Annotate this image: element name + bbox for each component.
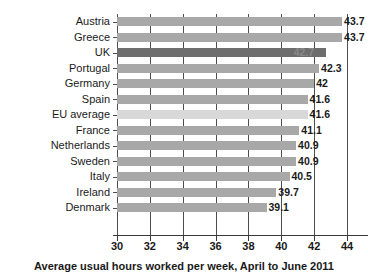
bar-chart: AustriaGreeceUKPortugalGermanySpainEU av… [0, 0, 368, 280]
category-axis-labels: AustriaGreeceUKPortugalGermanySpainEU av… [0, 14, 113, 236]
x-tick-label-44: 44 [341, 240, 353, 252]
bar-netherlands [117, 141, 296, 150]
bar-row: 42.3 [117, 61, 347, 77]
bar-value-label: 40.5 [292, 170, 312, 182]
category-label-germany: Germany [0, 76, 113, 92]
bar-row: 43.7 [117, 30, 347, 46]
bar-value-label: 43.7 [344, 15, 364, 27]
x-axis-tick-labels: 3032343638404244 [117, 240, 347, 256]
bar-row: 42.7 [117, 45, 347, 61]
bar-sweden [117, 157, 296, 166]
category-label-austria: Austria [0, 14, 113, 30]
category-label-italy: Italy [0, 169, 113, 185]
bar-value-label: 39.7 [278, 186, 298, 198]
x-tick-label-38: 38 [242, 240, 254, 252]
bar-row: 40.9 [117, 154, 347, 170]
bar-row: 39.1 [117, 200, 347, 216]
category-label-netherlands: Netherlands [0, 138, 113, 154]
bar-rows: 43.743.742.742.34241.641.641.140.940.940… [117, 14, 347, 235]
bar-value-label: 40.9 [298, 155, 318, 167]
x-tick-label-42: 42 [308, 240, 320, 252]
category-label-france: France [0, 123, 113, 139]
x-tick-label-40: 40 [275, 240, 287, 252]
bar-france [117, 126, 299, 135]
category-label-ireland: Ireland [0, 185, 113, 201]
bar-value-label: 42 [316, 77, 328, 89]
bar-row: 40.5 [117, 169, 347, 185]
bar-germany [117, 79, 314, 88]
category-label-portugal: Portugal [0, 61, 113, 77]
bar-spain [117, 95, 308, 104]
bar-row: 41.6 [117, 107, 347, 123]
x-tick-label-30: 30 [111, 240, 123, 252]
category-label-uk: UK [0, 45, 113, 61]
bar-denmark [117, 203, 267, 212]
x-tick-label-36: 36 [209, 240, 221, 252]
category-label-eu-average: EU average [0, 107, 113, 123]
category-label-greece: Greece [0, 30, 113, 46]
bar-value-label: 42.7 [294, 46, 314, 58]
bar-row: 40.9 [117, 138, 347, 154]
bar-row: 41.6 [117, 92, 347, 108]
bar-value-label: 41.6 [310, 108, 330, 120]
bar-greece [117, 33, 342, 42]
category-label-spain: Spain [0, 92, 113, 108]
bar-value-label: 41.6 [310, 93, 330, 105]
category-label-denmark: Denmark [0, 200, 113, 216]
bar-row: 42 [117, 76, 347, 92]
gridline-44 [347, 14, 348, 236]
plot-area: 43.743.742.742.34241.641.641.140.940.940… [117, 14, 347, 236]
chart-caption: Average usual hours worked per week, Apr… [0, 260, 368, 272]
bar-italy [117, 172, 290, 181]
bar-value-label: 41.1 [301, 124, 321, 136]
x-tick-label-34: 34 [177, 240, 189, 252]
bar-row: 39.7 [117, 185, 347, 201]
bar-row: 41.1 [117, 123, 347, 139]
x-tick-label-32: 32 [144, 240, 156, 252]
bar-value-label: 40.9 [298, 139, 318, 151]
bar-value-label: 39.1 [269, 201, 289, 213]
bar-ireland [117, 188, 276, 197]
category-label-sweden: Sweden [0, 154, 113, 170]
bar-value-label: 42.3 [321, 62, 341, 74]
bar-row: 43.7 [117, 14, 347, 30]
bar-portugal [117, 64, 319, 73]
bar-austria [117, 17, 342, 26]
bar-value-label: 43.7 [344, 31, 364, 43]
bar-eu-average [117, 110, 308, 119]
